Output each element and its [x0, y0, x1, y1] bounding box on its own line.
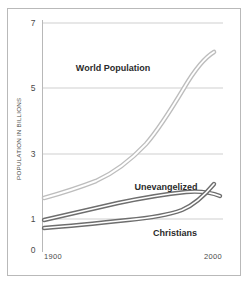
y-axis-title: POPULATION IN BILLIONS	[15, 98, 22, 180]
chart-figure: 7 5 3 1 0 1900 2000 POPULATION IN BILLIO…	[0, 0, 250, 291]
x-tick-labels: 1900 2000	[44, 252, 222, 261]
y-tick-7: 7	[31, 18, 36, 28]
label-christians: Christians	[153, 228, 197, 238]
y-tick-0: 0	[31, 245, 36, 255]
y-tick-5: 5	[31, 83, 36, 93]
label-unevangelized: Unevangelized	[134, 182, 197, 192]
chart-svg: 7 5 3 1 0 1900 2000 POPULATION IN BILLIO…	[0, 0, 250, 291]
y-tick-labels: 7 5 3 1 0	[31, 18, 36, 255]
series-world-population-core	[44, 52, 214, 198]
plot-area: 7 5 3 1 0 1900 2000 POPULATION IN BILLIO…	[0, 0, 250, 291]
series-world-population	[44, 52, 214, 198]
series-world-population-band	[44, 52, 214, 198]
label-world-population: World Population	[76, 63, 150, 73]
x-tick-2000: 2000	[204, 252, 222, 261]
x-tick-1900: 1900	[44, 252, 62, 261]
y-tick-3: 3	[31, 149, 36, 159]
y-tick-1: 1	[31, 214, 36, 224]
